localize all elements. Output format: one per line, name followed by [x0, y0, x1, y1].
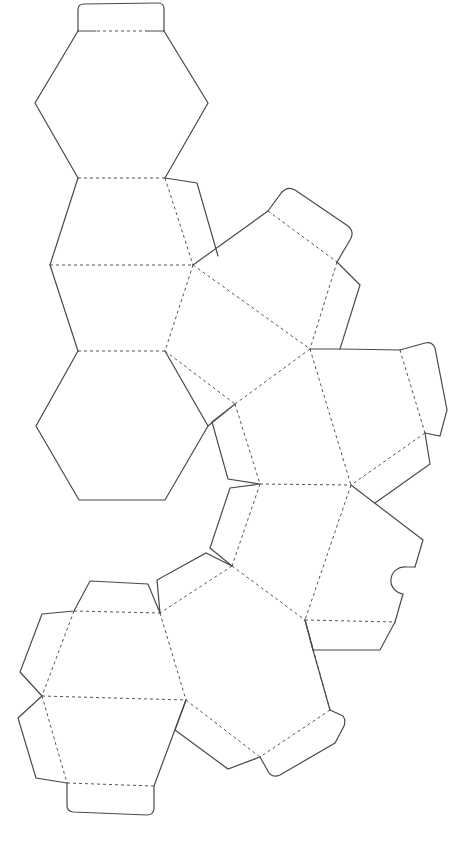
hex-middle	[36, 351, 208, 500]
tab-left-center	[208, 404, 260, 566]
pent-2	[310, 349, 425, 485]
pent-4	[232, 485, 423, 622]
tab-upper-right	[165, 178, 218, 256]
hex-bottom-upper	[20, 581, 186, 700]
papercraft-net	[0, 0, 476, 866]
pent-1	[165, 211, 337, 404]
notch	[305, 567, 415, 650]
hex-bottom-lower	[18, 696, 186, 786]
trap-upper	[50, 178, 193, 265]
tab-right-upper	[268, 188, 360, 349]
pent-5	[160, 566, 330, 757]
tab-top	[78, 3, 164, 31]
trap-lower	[50, 265, 193, 351]
tab-left-lower	[157, 553, 232, 613]
tab-bottom	[67, 783, 154, 815]
hex-top	[35, 31, 208, 178]
tab-right-middle	[375, 343, 447, 503]
